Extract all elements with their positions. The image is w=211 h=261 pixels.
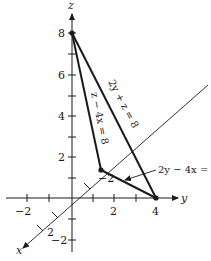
equation-label-2y-plus-z: 2y + z = 8 xyxy=(106,78,141,130)
vertex-x-intercept xyxy=(98,167,103,172)
x-tick-label: −2 xyxy=(98,172,114,185)
y-axis-label: y xyxy=(180,192,188,205)
vertex-y-intercept xyxy=(153,195,158,200)
z-tick-label: 8 xyxy=(58,27,65,40)
y-axis: y −2 2 4 xyxy=(6,192,188,218)
z-axis-label: z xyxy=(67,0,74,12)
z-tick-label: 6 xyxy=(58,69,65,82)
z-tick-label: 2 xyxy=(58,151,65,164)
tetrahedron-figure: z 8 6 4 2 −2 y −2 2 4 x 2 −2 2 xyxy=(0,0,211,261)
equation-label-z-minus-4x: z − 4x = 8 xyxy=(89,91,111,145)
x-axis-label: x xyxy=(16,244,23,257)
y-tick-label: 2 xyxy=(110,205,117,218)
x-tick-label: 2 xyxy=(47,226,54,239)
y-tick-label: 4 xyxy=(152,205,159,218)
z-tick-label: 4 xyxy=(58,110,65,123)
leader-arrow xyxy=(125,170,156,180)
equation-label-2y-minus-4x: 2y − 4x = 8 xyxy=(158,164,211,175)
y-tick-label: −2 xyxy=(15,205,31,218)
vertex-z-intercept xyxy=(69,30,74,35)
